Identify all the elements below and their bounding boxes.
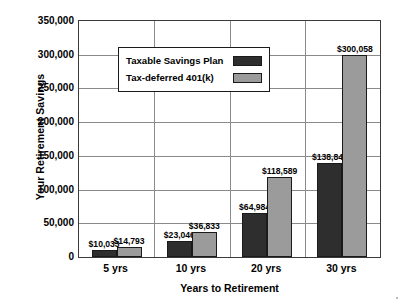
y-axis-tick-label: 100,000 (22, 183, 74, 194)
y-axis-tick-label: 300,000 (22, 48, 74, 59)
scan-artifact-speck (396, 297, 398, 299)
y-axis-tick-label: 350,000 (22, 15, 74, 26)
legend-swatch-icon (233, 73, 262, 83)
bar-20-yrs-series-0 (242, 213, 267, 257)
bar-value-label: $300,058 (337, 44, 373, 54)
y-axis-tick-label: 250,000 (22, 82, 74, 93)
bar-5-yrs-series-1 (117, 247, 142, 257)
x-axis-tick-label: 20 yrs (251, 262, 281, 274)
legend-item-tax-deferred-401k: Tax-deferred 401(k) (126, 69, 262, 86)
bar-value-label: $23,046 (164, 230, 195, 240)
x-axis-tick-label: 10 yrs (176, 262, 206, 274)
bar-30-yrs-series-0 (317, 163, 342, 257)
bar-value-label: $64,984 (239, 202, 270, 212)
x-axis-tick-label: 5 yrs (103, 262, 128, 274)
retirement-savings-bar-chart: Your Retirement Savings 050,000100,00015… (0, 0, 406, 306)
bar-value-label: $14,793 (114, 236, 145, 246)
legend-swatch-icon (233, 56, 262, 66)
y-axis-tick-label: 0 (22, 251, 74, 262)
x-axis-tick-labels: 5 yrs10 yrs20 yrs30 yrs (78, 262, 381, 278)
bar-20-yrs-series-1 (267, 177, 292, 257)
legend-label: Taxable Savings Plan (126, 55, 223, 66)
gridline-category-divider (305, 21, 306, 257)
chart-legend: Taxable Savings Plan Tax-deferred 401(k) (118, 47, 270, 92)
y-axis-tick-label: 50,000 (22, 217, 74, 228)
legend-label: Tax-deferred 401(k) (126, 72, 214, 83)
bar-30-yrs-series-1 (342, 55, 367, 257)
bar-value-label: $36,833 (189, 221, 220, 231)
bar-5-yrs-series-0 (92, 250, 117, 257)
x-axis-tick-label: 30 yrs (326, 262, 356, 274)
bar-value-label: $118,589 (262, 166, 297, 176)
legend-item-taxable-savings-plan: Taxable Savings Plan (126, 52, 262, 69)
y-axis-tick-label: 150,000 (22, 149, 74, 160)
y-axis-tick-label: 200,000 (22, 116, 74, 127)
bar-10-yrs-series-1 (192, 232, 217, 257)
bar-10-yrs-series-0 (167, 241, 192, 257)
y-axis-tick-labels: 050,000100,000150,000200,000250,000300,0… (22, 20, 74, 258)
x-axis-title: Years to Retirement (78, 282, 381, 294)
